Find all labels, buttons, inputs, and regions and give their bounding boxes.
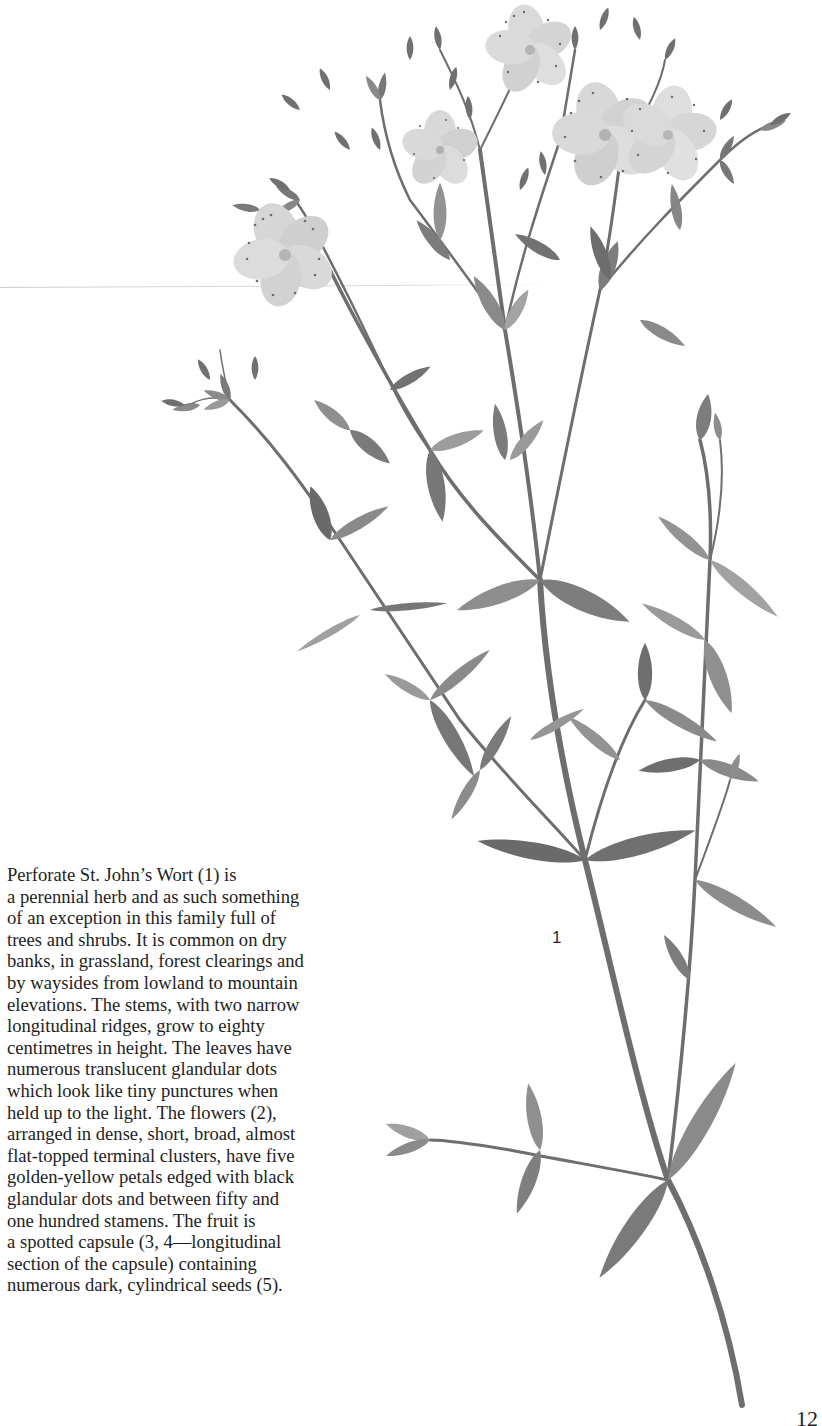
description-line: by waysides from lowland to mountain	[7, 972, 407, 994]
description-line: held up to the light. The flowers (2),	[7, 1102, 407, 1124]
description-line: numerous translucent glandular dots	[7, 1058, 407, 1080]
description-line: elevations. The stems, with two narrow	[7, 994, 407, 1016]
description-line: golden-yellow petals edged with black	[7, 1166, 407, 1188]
flowers	[230, 2, 719, 310]
description-line: of an exception in this family full of	[7, 907, 407, 929]
description-line: one hundred stamens. The fruit is	[7, 1210, 407, 1232]
description-line: banks, in grassland, forest clearings an…	[7, 950, 407, 972]
description-line: longitudinal ridges, grow to eighty	[7, 1015, 407, 1037]
description-line: arranged in dense, short, broad, almost	[7, 1123, 407, 1145]
book-page: 1 Perforate St. John’s Wort (1) is a per…	[0, 0, 822, 1426]
description-line: flat-topped terminal clusters, have five	[7, 1145, 407, 1167]
description-line: numerous dark, cylindrical seeds (5).	[7, 1274, 407, 1296]
description-line: Perforate St. John’s Wort (1) is	[7, 864, 407, 886]
description-line: centimetres in height. The leaves have	[7, 1037, 407, 1059]
description-line: section of the capsule) containing	[7, 1253, 407, 1275]
description-line: trees and shrubs. It is common on dry	[7, 929, 407, 951]
description-line: a perennial herb and as such something	[7, 886, 407, 908]
description-line: which look like tiny punctures when	[7, 1080, 407, 1102]
description-line: glandular dots and between fifty and	[7, 1188, 407, 1210]
species-description: Perforate St. John’s Wort (1) is a peren…	[7, 864, 407, 1296]
figure-label-1: 1	[552, 928, 561, 948]
description-line: a spotted capsule (3, 4—longitudinal	[7, 1231, 407, 1253]
page-number: 12	[796, 1408, 818, 1426]
